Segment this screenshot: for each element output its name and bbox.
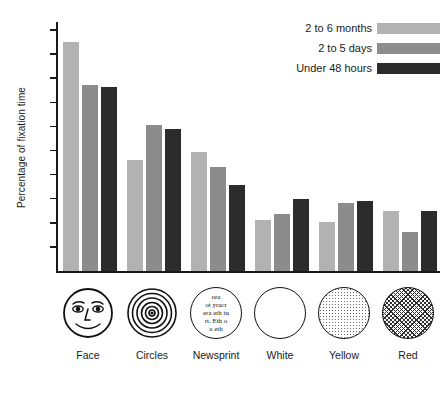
stimulus-yellow: Yellow — [313, 287, 375, 361]
y-tick-mark — [50, 150, 57, 152]
stimulus-label: Yellow — [313, 349, 375, 361]
legend-item: 2 to 6 months — [232, 20, 440, 36]
bar — [63, 42, 79, 271]
newsprint-line: a eth — [209, 325, 222, 333]
bar — [274, 214, 290, 271]
bar — [127, 160, 143, 271]
bar — [338, 203, 354, 271]
y-tick-mark — [50, 102, 57, 104]
red-crosshatch-circle-icon — [382, 287, 434, 339]
bar — [357, 201, 373, 271]
stimulus-label: Face — [57, 349, 119, 361]
bar — [82, 85, 98, 271]
legend-item: Under 48 hours — [232, 60, 440, 76]
stimulus-newsprint: reaot yracrera eth turt. Eth oa ethNewsp… — [185, 287, 247, 361]
newsprint-line: rea — [212, 293, 221, 301]
legend-label: 2 to 6 months — [305, 22, 372, 34]
y-tick-mark — [50, 77, 57, 79]
y-tick-mark — [50, 126, 57, 128]
chart-legend: 2 to 6 months2 to 5 daysUnder 48 hours — [232, 20, 440, 80]
stimulus-face: Face — [57, 287, 119, 361]
bar — [191, 152, 207, 271]
yellow-stipple-circle-icon — [318, 287, 370, 339]
y-tick-mark — [50, 246, 57, 248]
concentric-circles-icon — [126, 287, 178, 339]
newsprint-line: rt. Eth o — [205, 317, 228, 325]
stimulus-label: White — [249, 349, 311, 361]
legend-swatch — [377, 43, 440, 54]
bar — [421, 211, 437, 271]
newsprint-circle-icon: reaot yracrera eth turt. Eth oa eth — [190, 287, 242, 339]
legend-label: 2 to 5 days — [318, 42, 372, 54]
bar — [146, 125, 162, 271]
stimulus-icon-row: FaceCirclesreaot yracrera eth turt. Eth … — [56, 287, 440, 387]
newsprint-line: ot yracr — [205, 301, 227, 309]
y-tick-mark — [50, 29, 57, 31]
fixation-time-bar-chart: Percentage of fixation time 363230282420… — [0, 0, 448, 395]
y-tick-mark — [50, 174, 57, 176]
bar — [255, 220, 271, 271]
y-tick-mark — [50, 222, 57, 224]
newsprint-line: era eth tu — [203, 309, 229, 317]
legend-swatch — [377, 63, 440, 74]
y-axis-title: Percentage of fixation time — [16, 53, 27, 243]
bar — [319, 222, 335, 271]
legend-item: 2 to 5 days — [232, 40, 440, 56]
y-axis-line — [56, 22, 58, 273]
bar — [293, 199, 309, 271]
bar — [165, 129, 181, 271]
y-tick-mark — [50, 53, 57, 55]
legend-swatch — [377, 23, 440, 34]
bar — [383, 211, 399, 271]
stimulus-label: Newsprint — [185, 349, 247, 361]
y-tick-mark — [50, 198, 57, 200]
white-circle-icon — [254, 287, 306, 339]
stimulus-label: Circles — [121, 349, 183, 361]
bar — [101, 87, 117, 271]
bar — [229, 185, 245, 271]
stimulus-red: Red — [377, 287, 439, 361]
stimulus-circles: Circles — [121, 287, 183, 361]
stimulus-white: White — [249, 287, 311, 361]
face-circle-icon — [62, 287, 114, 339]
bar — [210, 167, 226, 271]
legend-label: Under 48 hours — [296, 62, 372, 74]
stimulus-label: Red — [377, 349, 439, 361]
bar — [402, 232, 418, 271]
x-axis-line — [56, 271, 440, 273]
